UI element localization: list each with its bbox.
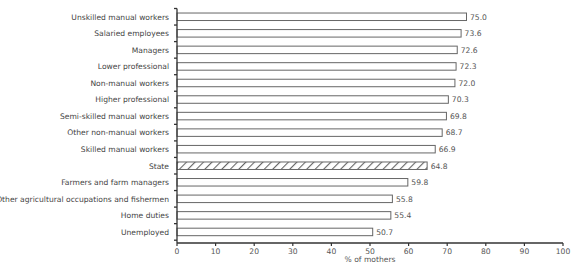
x-tick-label: 90 bbox=[520, 247, 530, 256]
category-label: Other non-manual workers bbox=[67, 128, 169, 137]
bar bbox=[177, 112, 446, 120]
value-label: 73.6 bbox=[465, 29, 482, 38]
bar-highlight bbox=[177, 162, 427, 170]
x-tick-label: 80 bbox=[481, 247, 491, 256]
x-tick-label: 60 bbox=[404, 247, 414, 256]
value-label: 59.8 bbox=[411, 178, 428, 187]
value-label: 72.6 bbox=[461, 46, 478, 55]
category-label: Skilled manual workers bbox=[81, 145, 169, 154]
value-label: 70.3 bbox=[452, 95, 469, 104]
value-label: 55.8 bbox=[396, 195, 413, 204]
bar bbox=[177, 96, 448, 104]
bar-chart: Unskilled manual workersSalaried employe… bbox=[0, 0, 576, 265]
category-label: Lower professional bbox=[98, 62, 169, 71]
value-label: 50.7 bbox=[376, 228, 393, 237]
x-axis: 0102030405060708090100 bbox=[175, 243, 571, 256]
x-tick-label: 0 bbox=[175, 247, 180, 256]
category-label: Managers bbox=[132, 46, 169, 55]
x-tick-label: 70 bbox=[442, 247, 452, 256]
x-tick-label: 40 bbox=[327, 247, 337, 256]
bar bbox=[177, 145, 435, 153]
category-labels: Unskilled manual workersSalaried employe… bbox=[0, 13, 169, 237]
x-tick-label: 10 bbox=[211, 247, 221, 256]
value-label: 66.9 bbox=[439, 145, 456, 154]
value-label: 72.3 bbox=[460, 62, 477, 71]
bar bbox=[177, 13, 467, 21]
category-label: State bbox=[149, 162, 169, 171]
bar bbox=[177, 46, 457, 54]
bar bbox=[177, 228, 373, 236]
bar bbox=[177, 79, 455, 87]
category-label: Unemployed bbox=[121, 228, 169, 237]
category-label: Higher professional bbox=[95, 95, 169, 104]
value-label: 75.0 bbox=[470, 13, 487, 22]
x-tick-label: 30 bbox=[288, 247, 298, 256]
x-axis-title: % of mothers bbox=[345, 255, 396, 264]
x-tick-label: 100 bbox=[556, 247, 571, 256]
category-label: Unskilled manual workers bbox=[71, 13, 169, 22]
value-label: 68.7 bbox=[446, 128, 463, 137]
x-tick-label: 20 bbox=[249, 247, 259, 256]
category-label: Non-manual workers bbox=[90, 79, 169, 88]
category-label: Other agricultural occupations and fishe… bbox=[0, 195, 169, 204]
bar bbox=[177, 63, 456, 71]
value-label: 69.8 bbox=[450, 112, 467, 121]
category-label: Salaried employees bbox=[94, 29, 169, 38]
category-label: Farmers and farm managers bbox=[61, 178, 169, 187]
bar bbox=[177, 195, 392, 203]
bar bbox=[177, 212, 391, 220]
value-label: 72.0 bbox=[458, 79, 475, 88]
bar bbox=[177, 179, 408, 187]
category-label: Semi-skilled manual workers bbox=[60, 112, 169, 121]
bar bbox=[177, 30, 461, 38]
bars-group bbox=[177, 13, 467, 236]
category-label: Home duties bbox=[121, 211, 169, 220]
y-axis bbox=[174, 9, 177, 244]
bar bbox=[177, 129, 442, 137]
value-label: 55.4 bbox=[394, 211, 411, 220]
value-label: 64.8 bbox=[431, 162, 448, 171]
